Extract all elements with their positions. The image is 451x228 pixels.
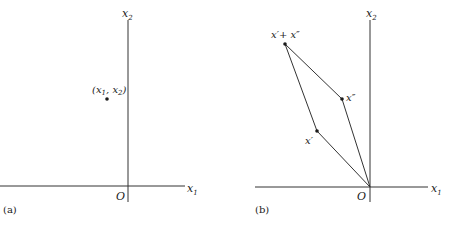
point-x-double-prime [340, 97, 344, 101]
parallelogram [285, 44, 370, 187]
point-sum [283, 42, 287, 46]
point-label: (x1, x2) [92, 84, 126, 97]
caption-b: (b) [255, 204, 269, 215]
sum-label: x′+ x″ [271, 29, 300, 40]
point-x-prime [315, 129, 319, 133]
panel-a: x2 x1 O (x1, x2) (a) [0, 7, 198, 215]
x-prime-label: x′ [305, 135, 314, 146]
x2-axis-label: x2 [122, 7, 133, 22]
caption-a: (a) [3, 204, 17, 215]
panel-b: x2 x1 O x′+ x″ x″ x′ (b) [255, 7, 442, 215]
x1-axis-label: x1 [187, 182, 198, 197]
x2-axis-label: x2 [366, 7, 377, 22]
x-double-prime-label: x″ [346, 92, 356, 103]
origin-label: O [357, 190, 366, 203]
origin-label: O [116, 190, 125, 203]
figure: x2 x1 O (x1, x2) (a) x2 x1 O x′+ x″ x″ x… [0, 0, 451, 228]
point-x1-x2 [105, 97, 109, 101]
x1-axis-label: x1 [431, 182, 442, 197]
